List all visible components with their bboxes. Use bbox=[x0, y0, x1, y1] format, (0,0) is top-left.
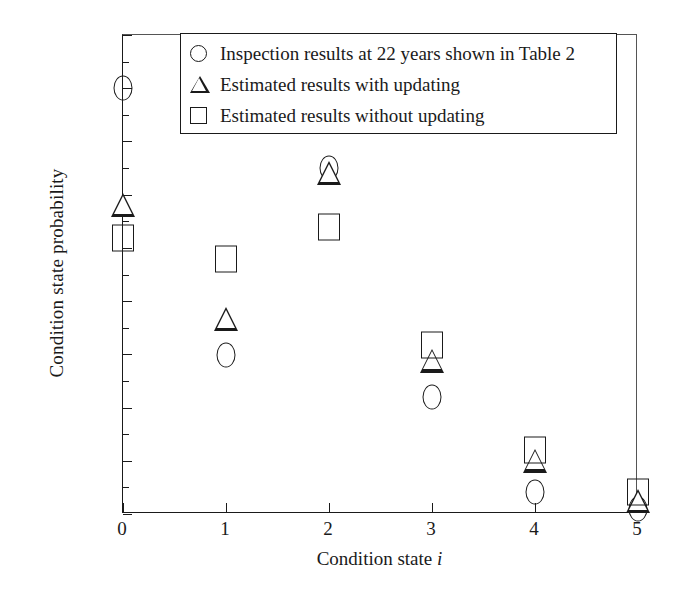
circle-data-point bbox=[114, 76, 133, 101]
legend-entry-label: Estimated results without updating bbox=[220, 106, 484, 125]
triangle-data-point bbox=[111, 193, 135, 217]
x-tick-label: 5 bbox=[617, 519, 657, 538]
y-axis-minor-tick bbox=[123, 434, 129, 435]
y-axis-tick bbox=[123, 301, 132, 302]
triangle-marker-icon bbox=[190, 76, 220, 93]
circle-data-point bbox=[526, 479, 545, 504]
chart-figure: Condition state probability Condition st… bbox=[0, 0, 673, 592]
y-axis-minor-tick bbox=[123, 328, 129, 329]
x-tick-label: 1 bbox=[205, 519, 245, 538]
square-data-point bbox=[524, 437, 546, 464]
y-axis-minor-tick bbox=[123, 381, 129, 382]
x-axis-tick bbox=[432, 503, 433, 512]
square-data-point bbox=[627, 478, 649, 505]
x-axis-title-variable: i bbox=[437, 548, 442, 569]
y-axis-minor-tick bbox=[123, 168, 129, 169]
x-tick-label: 3 bbox=[411, 519, 451, 538]
legend-entry: Estimated results without updating bbox=[190, 100, 608, 131]
y-axis-title: Condition state probability bbox=[46, 123, 68, 423]
x-tick-label: 2 bbox=[308, 519, 348, 538]
x-axis-tick bbox=[535, 503, 536, 512]
y-axis-minor-tick bbox=[123, 221, 129, 222]
legend-box: Inspection results at 22 years shown in … bbox=[180, 33, 617, 134]
y-axis-minor-tick bbox=[123, 487, 129, 488]
x-tick-label: 4 bbox=[514, 519, 554, 538]
square-data-point bbox=[318, 213, 340, 240]
y-axis-tick bbox=[123, 514, 132, 515]
x-tick-label: 0 bbox=[102, 519, 142, 538]
y-axis-tick bbox=[123, 354, 132, 355]
y-axis-minor-tick bbox=[123, 62, 129, 63]
x-axis-tick bbox=[329, 503, 330, 512]
legend-entry: Estimated results with updating bbox=[190, 69, 608, 100]
y-axis-tick bbox=[123, 461, 132, 462]
y-axis-tick bbox=[123, 35, 132, 36]
circle-marker-icon bbox=[190, 45, 220, 62]
square-marker-icon bbox=[190, 107, 220, 124]
triangle-data-point bbox=[214, 307, 238, 331]
square-data-point bbox=[215, 245, 237, 272]
legend-entry-label: Estimated results with updating bbox=[220, 75, 460, 94]
circle-data-point bbox=[217, 343, 236, 368]
y-axis-tick bbox=[123, 408, 132, 409]
circle-data-point bbox=[423, 384, 442, 409]
x-axis-title: Condition state i bbox=[122, 548, 637, 570]
y-axis-minor-tick bbox=[123, 275, 129, 276]
y-axis-tick bbox=[123, 141, 132, 142]
legend-entry-label: Inspection results at 22 years shown in … bbox=[220, 44, 575, 63]
legend-entry: Inspection results at 22 years shown in … bbox=[190, 38, 608, 69]
x-axis-tick bbox=[226, 503, 227, 512]
square-data-point bbox=[112, 225, 134, 252]
triangle-data-point bbox=[317, 161, 341, 185]
x-axis-tick bbox=[123, 503, 124, 512]
square-data-point bbox=[421, 331, 443, 358]
y-axis-minor-tick bbox=[123, 115, 129, 116]
